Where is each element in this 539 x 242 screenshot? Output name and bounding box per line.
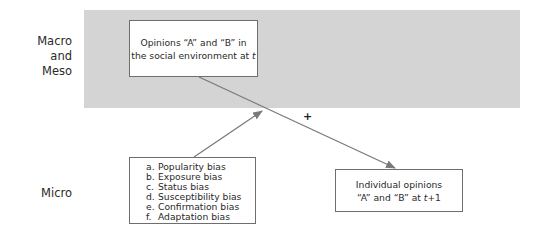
time-offset: +1 (427, 192, 441, 203)
bias-letter: f. (146, 212, 158, 222)
main-causal-arrow (199, 77, 395, 168)
individual-opinions-line2-text: “A” and “B” at (357, 192, 424, 203)
social-environment-line2: the social environment at t (131, 49, 255, 62)
time-variable: t (252, 50, 256, 61)
social-environment-line1: Opinions “A” and “B” in (140, 36, 246, 49)
bias-item-adaptation: f.Adaptation bias (146, 212, 255, 222)
positive-effect-sign: + (303, 110, 312, 123)
social-environment-box: Opinions “A” and “B” in the social envir… (129, 20, 258, 77)
individual-opinions-line2: “A” and “B” at t+1 (357, 191, 441, 204)
individual-opinions-box: Individual opinions “A” and “B” at t+1 (335, 169, 463, 212)
individual-opinions-line1: Individual opinions (356, 178, 442, 191)
bias-moderation-arrow (194, 111, 262, 157)
biases-box: a.Popularity bias b.Exposure bias c.Stat… (129, 157, 256, 224)
bias-label: Adaptation bias (158, 212, 230, 222)
social-environment-line2-text: the social environment at (131, 50, 252, 61)
